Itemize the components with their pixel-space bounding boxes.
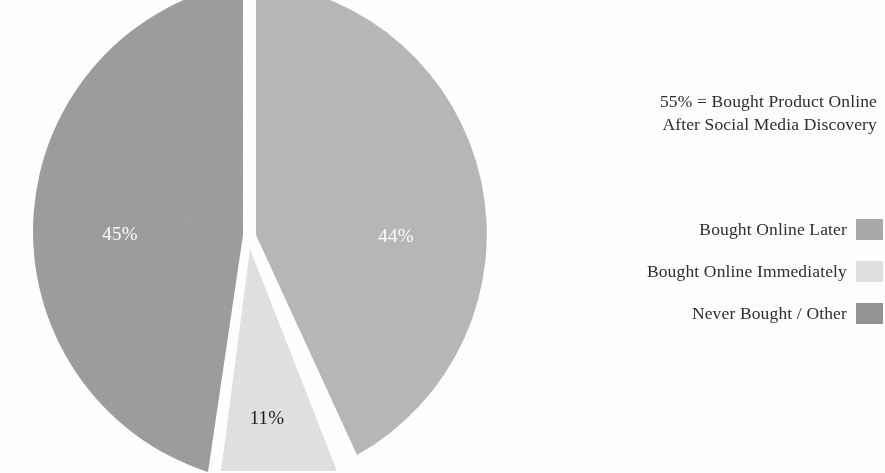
legend-item-bought-online-immediately: Bought Online Immediately <box>543 250 883 292</box>
pie-chart-figure: 44% 11% 45% 55% = Bought Product Online … <box>0 0 885 473</box>
chart-title-line-2: After Social Media Discovery <box>547 113 877 136</box>
legend-item-bought-online-later: Bought Online Later <box>543 208 883 250</box>
chart-title: 55% = Bought Product Online After Social… <box>547 90 877 136</box>
legend-swatch-bought-online-immediately <box>856 261 883 282</box>
chart-title-line-1: 55% = Bought Product Online <box>547 90 877 113</box>
pie-svg: 44% 11% 45% <box>0 0 520 473</box>
slice-value-label-bought-online-later: 44% <box>378 225 413 246</box>
pie-plot-area: 44% 11% 45% <box>0 0 520 473</box>
legend-label-never-bought-other: Never Bought / Other <box>692 303 856 324</box>
legend-swatch-bought-online-later <box>856 219 883 240</box>
chart-legend: Bought Online Later Bought Online Immedi… <box>543 208 883 334</box>
legend-label-bought-online-immediately: Bought Online Immediately <box>647 261 856 282</box>
legend-item-never-bought-other: Never Bought / Other <box>543 292 883 334</box>
chart-side-panel: 55% = Bought Product Online After Social… <box>520 0 885 473</box>
pie-slice-never-bought-other <box>33 0 243 472</box>
legend-swatch-never-bought-other <box>856 303 883 324</box>
legend-label-bought-online-later: Bought Online Later <box>699 219 856 240</box>
slice-value-label-never-bought-other: 45% <box>102 223 137 244</box>
slice-value-label-bought-online-immediately: 11% <box>250 407 285 428</box>
